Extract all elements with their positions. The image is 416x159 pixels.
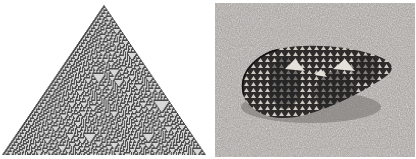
shell-dark-band: [351, 55, 379, 83]
cone-shell-photo-panel: [215, 3, 415, 157]
cellular-automaton-triangle: [0, 0, 212, 159]
cellular-automaton-panel: [0, 0, 212, 159]
cone-shell-photo: [215, 3, 415, 157]
